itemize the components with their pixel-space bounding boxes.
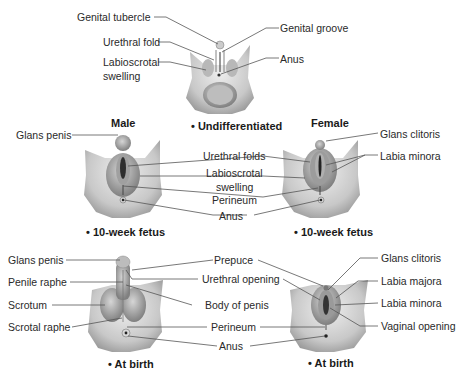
caption-undifferentiated: • Undifferentiated: [191, 120, 282, 132]
label-glans-penis-10wk: Glans penis: [16, 129, 71, 141]
label-genital-groove: Genital groove: [280, 22, 348, 34]
male-10-week-illustration: [84, 135, 162, 218]
label-body-of-penis: Body of penis: [205, 299, 269, 311]
caption-male-at-birth: • At birth: [108, 358, 154, 370]
label-penile-raphe: Penile raphe: [8, 276, 67, 288]
label-glans-clitoris-10wk: Glans clitoris: [380, 128, 440, 140]
label-labia-majora: Labia majora: [381, 275, 442, 287]
label-glans-clitoris-birth: Glans clitoris: [381, 252, 441, 264]
label-anus-undifferentiated: Anus: [280, 53, 304, 65]
heading-female: Female: [311, 117, 349, 129]
caption-male-10-week: • 10-week fetus: [86, 226, 165, 238]
label-labia-minora-birth: Labia minora: [381, 297, 442, 309]
label-labioscrotal-swelling-line1: Labioscrotal: [103, 56, 160, 68]
label-urethral-folds: Urethral folds: [203, 150, 265, 162]
label-anus-birth: Anus: [219, 340, 243, 352]
label-labioscrotal-swelling-10wk-line2: swelling: [216, 181, 253, 193]
label-perineum-10wk: Perineum: [212, 194, 257, 206]
caption-female-10-week: • 10-week fetus: [294, 226, 373, 238]
label-vaginal-opening: Vaginal opening: [381, 320, 456, 332]
caption-female-at-birth: • At birth: [308, 357, 354, 369]
label-glans-penis-birth: Glans penis: [8, 254, 63, 266]
label-urethral-fold: Urethral fold: [103, 36, 160, 48]
label-scrotum: Scrotum: [8, 299, 47, 311]
label-genital-tubercle: Genital tubercle: [77, 11, 151, 23]
male-at-birth-illustration: [88, 256, 163, 352]
label-scrotal-raphe: Scrotal raphe: [8, 321, 70, 333]
heading-male: Male: [111, 117, 135, 129]
label-labia-minora-10wk: Labia minora: [380, 150, 441, 162]
label-urethral-opening: Urethral opening: [202, 273, 280, 285]
label-prepuce: Prepuce: [214, 254, 253, 266]
label-anus-10wk: Anus: [219, 210, 243, 222]
undifferentiated-illustration: [186, 41, 254, 114]
label-perineum-birth: Perineum: [211, 321, 256, 333]
female-at-birth-illustration: [290, 280, 368, 352]
label-labioscrotal-swelling-line2: swelling: [103, 70, 140, 82]
label-labioscrotal-swelling-10wk-line1: Labioscrotal: [206, 167, 263, 179]
